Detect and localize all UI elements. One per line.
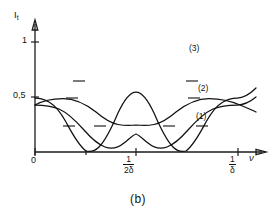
plot-area [0,0,276,221]
x-tick-label-mid: 1 2δ [123,155,134,175]
x-tick-right-denominator: δ [229,166,236,175]
curve-dash-marks [63,81,208,126]
x-tick-mid-numerator: 1 [123,155,134,164]
x-axis-label: ν [249,153,254,163]
figure-caption: (b) [0,192,276,206]
curve-label-1: (1) [196,112,206,121]
y-tick-label-1: 1 [22,36,27,45]
x-tick-label-0: 0 [31,156,36,165]
figure-panel: It 1 0,5 0 1 2δ 1 δ ν (1) (2) (3) (b) [0,0,276,221]
x-tick-mid-denominator: 2δ [123,166,134,175]
y-tick-label-0-5: 0,5 [13,91,26,100]
y-axis-label-sub: t [17,14,19,21]
x-tick-label-right: 1 δ [229,155,236,175]
curve-2 [35,97,256,148]
curve-label-2: (2) [198,84,208,93]
y-axis-label: It [14,10,19,21]
curve-label-3: (3) [189,44,199,53]
x-tick-right-numerator: 1 [229,155,236,164]
